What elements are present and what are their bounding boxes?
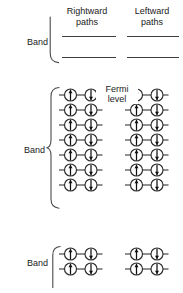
- electron-pair-row: [59, 160, 103, 175]
- column-header-leftward-line1: Leftward: [121, 6, 183, 17]
- electron-pair-row: [59, 130, 103, 145]
- electron-pair-row: [125, 175, 169, 190]
- fermi-level-line2: level: [97, 95, 137, 105]
- electron-pair-row: [125, 145, 169, 160]
- energy-level-line: [127, 36, 179, 37]
- electron-pair-row: [125, 259, 169, 274]
- electron-pair-row: [125, 115, 169, 130]
- band-brace-top: [45, 17, 59, 64]
- electron-pair-row: [59, 259, 103, 274]
- electron-pair-row: [125, 160, 169, 175]
- column-header-rightward-line2: paths: [56, 17, 118, 28]
- electron-pair-row: [125, 130, 169, 145]
- band-label-middle: Band: [5, 145, 45, 155]
- electron-pair-row: [59, 175, 103, 190]
- column-header-rightward-paths: Rightward paths: [56, 6, 118, 27]
- band-brace-middle: [46, 87, 60, 209]
- column-header-rightward-line1: Rightward: [56, 6, 118, 17]
- energy-level-line: [62, 36, 116, 37]
- electron-pair-row: [125, 244, 169, 259]
- energy-level-line: [62, 57, 116, 58]
- band-diagram: Rightward paths Leftward paths Band Band…: [0, 0, 183, 293]
- fermi-level-annotation: Fermi level: [96, 85, 138, 104]
- electron-pair-row: [59, 115, 103, 130]
- electron-pair-row: [59, 145, 103, 160]
- column-header-leftward-paths: Leftward paths: [121, 6, 183, 27]
- energy-level-line: [127, 57, 179, 58]
- column-header-leftward-line2: paths: [121, 17, 183, 28]
- band-label-bottom: Band: [8, 258, 48, 268]
- electron-pair-row: [59, 244, 103, 259]
- band-label-top: Band: [8, 37, 48, 47]
